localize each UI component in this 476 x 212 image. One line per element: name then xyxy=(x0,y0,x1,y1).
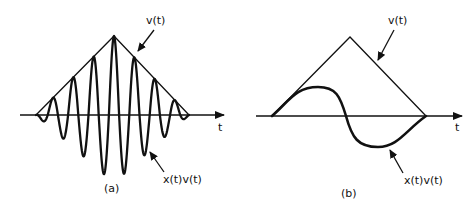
envelope-v-t xyxy=(272,37,426,116)
product-signal-x-t-v-t xyxy=(272,87,426,147)
product-signal-x-t-v-t xyxy=(36,36,189,174)
axis-label-t: t xyxy=(218,121,223,134)
product-label-arrow xyxy=(390,150,403,173)
envelope-label: v(t) xyxy=(388,14,407,27)
panel-caption: (b) xyxy=(341,187,357,200)
envelope-label: v(t) xyxy=(146,14,165,27)
product-label: x(t)v(t) xyxy=(404,174,443,187)
envelope-label-arrow xyxy=(138,30,154,51)
diagram-canvas: v(t) x(t)v(t) t (a) v(t) x(t)v(t) t (b) xyxy=(0,0,476,212)
envelope-label-arrow xyxy=(378,30,394,60)
panel-a: v(t) x(t)v(t) t (a) xyxy=(20,14,224,195)
panel-b: v(t) x(t)v(t) t (b) xyxy=(256,14,462,200)
axis-label-t: t xyxy=(455,121,460,134)
product-label: x(t)v(t) xyxy=(163,173,202,186)
panel-caption: (a) xyxy=(104,182,119,195)
product-label-arrow xyxy=(150,152,164,172)
